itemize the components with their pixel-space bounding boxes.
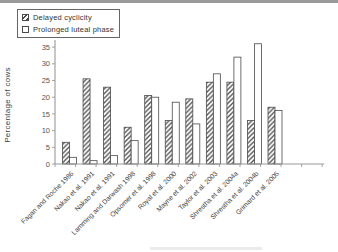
bar-prolonged-luteal-phase (275, 111, 282, 164)
y-tick-label: 25 (42, 76, 50, 85)
bar-delayed-cyclicity (83, 79, 90, 164)
bottom-artifact (150, 247, 262, 250)
hatched-swatch (22, 14, 29, 21)
legend-item-prolonged-luteal-phase: Prolonged luteal phase (22, 25, 114, 34)
bar-delayed-cyclicity (227, 82, 234, 164)
y-tick-label: 30 (42, 59, 50, 68)
y-tick-label: 35 (42, 43, 50, 52)
y-tick-label: 15 (42, 110, 50, 119)
bar-delayed-cyclicity (63, 142, 70, 164)
bar-delayed-cyclicity (145, 96, 152, 164)
bar-delayed-cyclicity (124, 127, 131, 164)
bar-prolonged-luteal-phase (172, 102, 179, 164)
bar-delayed-cyclicity (104, 87, 111, 164)
bar-prolonged-luteal-phase (70, 157, 77, 164)
bar-delayed-cyclicity (268, 107, 275, 164)
y-tick-label: 10 (42, 126, 50, 135)
figure: Delayed cyclicity Prolonged luteal phase… (0, 0, 338, 252)
y-tick-label: 5 (46, 143, 50, 152)
bar-prolonged-luteal-phase (111, 156, 118, 164)
bar-prolonged-luteal-phase (193, 124, 200, 164)
legend-label: Delayed cyclicity (33, 13, 92, 22)
y-axis-title: Percentage of cows (3, 57, 15, 153)
bar-delayed-cyclicity (247, 121, 254, 164)
bar-prolonged-luteal-phase (152, 97, 159, 164)
y-tick-label: 0 (46, 160, 50, 169)
bar-delayed-cyclicity (165, 121, 172, 164)
legend-label: Prolonged luteal phase (33, 25, 114, 34)
bar-prolonged-luteal-phase (213, 74, 220, 164)
bar-delayed-cyclicity (186, 99, 193, 164)
legend: Delayed cyclicity Prolonged luteal phase (17, 9, 120, 38)
bar-prolonged-luteal-phase (131, 141, 138, 164)
bar-prolonged-luteal-phase (254, 44, 261, 164)
bar-delayed-cyclicity (206, 82, 213, 164)
legend-item-delayed-cyclicity: Delayed cyclicity (22, 13, 114, 22)
y-tick-label: 20 (42, 93, 50, 102)
bar-prolonged-luteal-phase (234, 57, 241, 164)
white-swatch (22, 26, 29, 33)
